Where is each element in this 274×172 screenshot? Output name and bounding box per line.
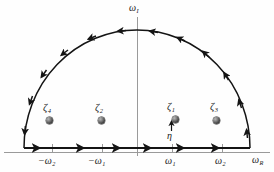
tick-label-omega-1: ω1 <box>165 156 176 167</box>
contour-arc <box>24 30 250 148</box>
eta-label: η <box>167 131 172 141</box>
pole-label-zeta-3: ζ3 <box>210 102 218 113</box>
horizontal-axis-label: ωR <box>252 155 263 166</box>
pole-marker-zeta-1 <box>172 116 179 123</box>
contour-layer <box>0 0 274 172</box>
tick-label-neg-omega-1: −ω1 <box>88 156 105 167</box>
pole-marker-zeta-3 <box>213 117 220 124</box>
vertical-axis-label: ωI <box>129 3 139 14</box>
contour-figure: ωI ωR −ω2 −ω1 ω1 ω2 ζ4 ζ2 ζ1 ζ3 η <box>0 0 274 172</box>
pole-marker-zeta-4 <box>46 117 53 124</box>
pole-marker-zeta-2 <box>98 117 105 124</box>
pole-label-zeta-1: ζ1 <box>167 102 175 113</box>
pole-label-zeta-4: ζ4 <box>43 103 51 114</box>
pole-label-zeta-2: ζ2 <box>95 103 103 114</box>
arc-direction-arrows-left <box>25 31 126 134</box>
tick-label-omega-2: ω2 <box>215 156 226 167</box>
tick-label-neg-omega-2: −ω2 <box>38 156 55 167</box>
